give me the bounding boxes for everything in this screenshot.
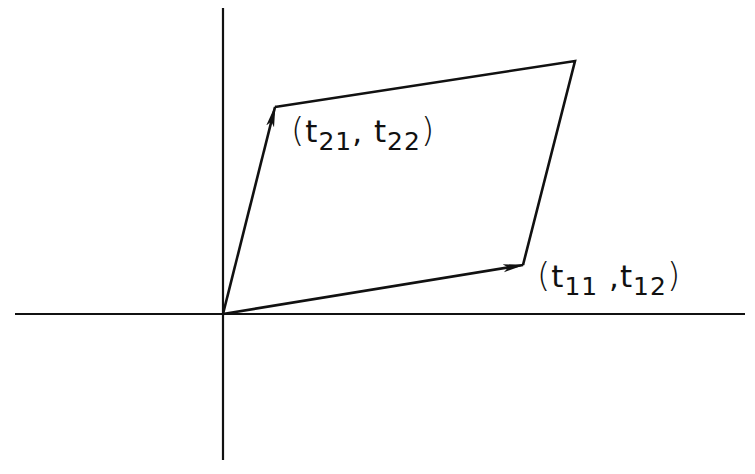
parallelogram-far-edges xyxy=(275,61,575,265)
close-paren: ) xyxy=(667,255,681,295)
label-var: t xyxy=(551,258,564,294)
vector-t2-label: (t21, t22) xyxy=(291,113,435,147)
label-var: t xyxy=(374,113,387,149)
label-subscript: 12 xyxy=(633,272,667,301)
label-subscript: 22 xyxy=(387,127,421,156)
vector-t2-arrow xyxy=(223,107,275,314)
close-paren: ) xyxy=(421,110,435,150)
open-paren: ( xyxy=(291,110,305,150)
vector-t1-arrow xyxy=(223,265,523,314)
label-subscript: 21 xyxy=(318,127,352,156)
separator: , xyxy=(352,113,363,149)
separator: , xyxy=(609,258,620,294)
label-subscript: 11 xyxy=(564,272,598,301)
vector-t1-label: (t11 ,t12) xyxy=(537,258,681,292)
label-var: t xyxy=(620,258,633,294)
label-var: t xyxy=(305,113,318,149)
open-paren: ( xyxy=(537,255,551,295)
parallelogram-diagram xyxy=(0,0,755,474)
